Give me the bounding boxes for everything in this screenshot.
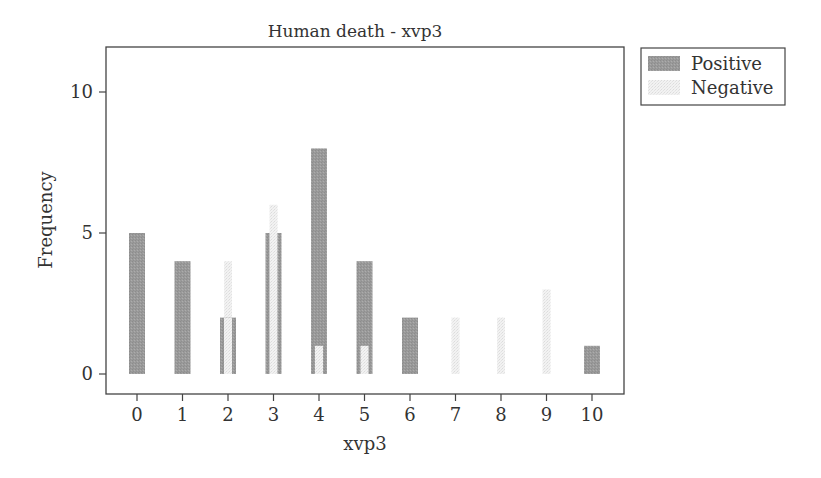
bar-negative — [543, 289, 551, 374]
bar-negative — [452, 318, 460, 374]
x-tick-label: 7 — [450, 404, 461, 425]
x-axis-title: xvp3 — [343, 433, 386, 454]
x-tick-label: 9 — [541, 404, 552, 425]
legend-swatch-negative — [648, 80, 680, 95]
y-axis: 0510 — [70, 81, 106, 384]
bar-positive — [311, 148, 327, 374]
x-tick-label: 2 — [222, 404, 233, 425]
x-tick-label: 10 — [581, 404, 604, 425]
x-tick-label: 3 — [268, 404, 279, 425]
legend-label-positive: Positive — [691, 53, 762, 74]
bar-positive — [402, 318, 418, 374]
y-tick-label: 5 — [82, 222, 93, 243]
x-tick-label: 6 — [404, 404, 415, 425]
y-tick-label: 0 — [82, 363, 93, 384]
x-tick-label: 1 — [177, 404, 188, 425]
y-axis-title: Frequency — [35, 170, 56, 268]
bar-positive — [129, 233, 145, 374]
bar-negative — [497, 318, 505, 374]
bar-positive — [175, 261, 191, 374]
bar-negative-overlap — [224, 318, 232, 374]
bar-negative-overlap — [315, 346, 323, 374]
x-tick-label: 0 — [131, 404, 142, 425]
bar-positive — [584, 346, 600, 374]
legend-swatch-positive — [648, 56, 680, 71]
legend-label-negative: Negative — [691, 77, 773, 98]
x-tick-label: 4 — [313, 404, 324, 425]
legend: Positive Negative — [641, 48, 785, 105]
chart-title: Human death - xvp3 — [268, 21, 443, 41]
bar-negative-overlap — [270, 233, 278, 374]
x-tick-label: 8 — [495, 404, 506, 425]
x-tick-label: 5 — [359, 404, 370, 425]
x-axis: 012345678910 — [131, 394, 603, 425]
bar-chart: Human death - xvp3 0510 012345678910 xvp… — [0, 0, 821, 478]
y-tick-label: 10 — [70, 81, 93, 102]
bars-layer — [129, 148, 600, 374]
bar-negative-overlap — [361, 346, 369, 374]
